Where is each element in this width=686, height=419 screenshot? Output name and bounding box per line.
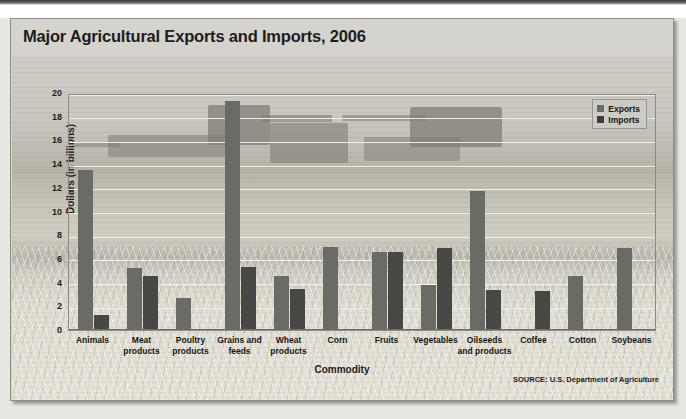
chart-figure: Major Agricultural Exports and Imports, …	[10, 18, 674, 401]
bar-exports	[470, 191, 485, 330]
legend-swatch-imports-icon	[597, 116, 604, 123]
bar-exports	[421, 285, 436, 330]
bar-imports	[290, 289, 305, 330]
x-axis-label: Commodity	[11, 364, 673, 375]
legend-swatch-exports-icon	[597, 105, 604, 112]
bar-exports	[568, 276, 583, 331]
bar-exports	[372, 252, 387, 330]
page-top-gap	[0, 5, 686, 18]
bar-imports	[535, 291, 550, 330]
bar-exports	[274, 276, 289, 331]
legend-entry-imports: Imports	[597, 114, 640, 125]
y-tick-label: 14	[40, 159, 62, 169]
bar-exports	[127, 268, 142, 330]
bar-exports	[176, 298, 191, 330]
y-tick-label: 16	[40, 135, 62, 145]
bar-exports	[225, 101, 240, 330]
bar-imports	[241, 267, 256, 330]
bar-imports	[94, 315, 109, 330]
y-tick-label: 2	[40, 301, 62, 311]
y-tick-label: 20	[40, 88, 62, 98]
x-tick-label: Soybeans	[603, 335, 660, 346]
screenshot-root: Major Agricultural Exports and Imports, …	[0, 0, 686, 419]
y-tick-label: 18	[40, 112, 62, 122]
bar-exports	[78, 170, 93, 330]
y-tick-label: 10	[40, 207, 62, 217]
bar-exports	[323, 247, 338, 330]
bar-imports	[486, 290, 501, 330]
legend-label-exports: Exports	[608, 104, 640, 114]
page-title: Major Agricultural Exports and Imports, …	[23, 27, 366, 46]
legend-entry-exports: Exports	[597, 103, 640, 114]
x-tick-labels: AnimalsMeatproductsPoultryproductsGrains…	[68, 335, 656, 365]
source-note: SOURCE: U.S. Department of Agriculture	[513, 375, 659, 384]
chart-legend: Exports Imports	[592, 99, 647, 129]
bar-imports	[143, 276, 158, 331]
plot-area: Exports Imports	[68, 94, 656, 331]
y-tick-label: 12	[40, 183, 62, 193]
y-tick-label: 4	[40, 278, 62, 288]
x-axis-line	[69, 329, 655, 330]
bar-imports	[437, 248, 452, 330]
bar-exports	[617, 248, 632, 330]
legend-label-imports: Imports	[608, 115, 639, 125]
bar-imports	[388, 252, 403, 330]
y-tick-label: 0	[40, 325, 62, 335]
bar-series-container	[69, 95, 655, 330]
y-tick-label: 6	[40, 254, 62, 264]
y-tick-label: 8	[40, 230, 62, 240]
